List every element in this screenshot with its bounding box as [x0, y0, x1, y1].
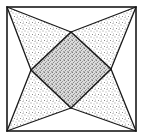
geometric-diagram [0, 0, 143, 139]
diagram-canvas [0, 0, 143, 139]
